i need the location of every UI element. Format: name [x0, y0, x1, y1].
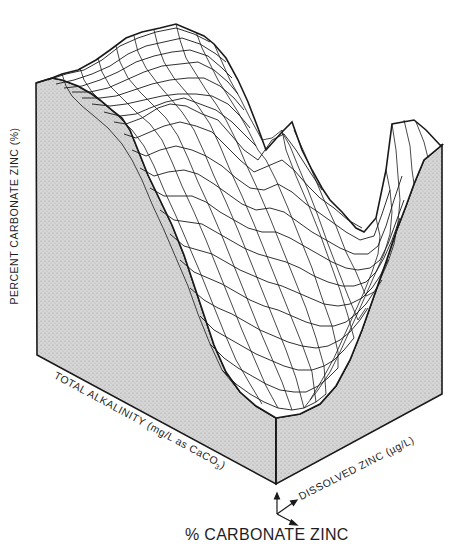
axis-triad-icon: [275, 493, 298, 525]
y-axis-label: PERCENT CARBONATE ZINC (%): [8, 127, 20, 304]
surface-plot-figure: PERCENT CARBONATE ZINC (%) TOTAL ALKALIN…: [0, 0, 455, 559]
surface-plot-canvas: [0, 0, 455, 559]
chart-title: % CARBONATE ZINC: [185, 526, 349, 544]
